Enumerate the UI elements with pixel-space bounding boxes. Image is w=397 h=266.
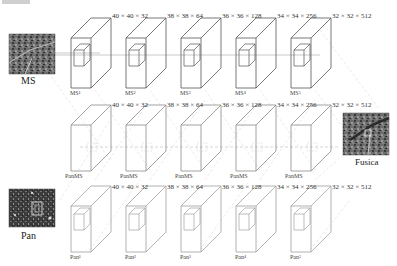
layer-dimensions-label: 32 × 32 × 512 — [332, 184, 371, 191]
feature-map-box — [236, 186, 276, 252]
fusion-output-image — [343, 113, 389, 155]
layer-dimensions-label: 40 × 40 × 32 — [112, 102, 148, 109]
feature-map-box — [126, 105, 166, 171]
feature-map-box — [126, 186, 166, 252]
layer-dimensions-label: 34 × 34 × 256 — [277, 102, 316, 109]
feature-map-box — [181, 186, 221, 252]
layer-name-label: PanMS — [175, 173, 193, 179]
layer-dimensions-label: 40 × 40 × 32 — [112, 13, 148, 20]
feature-map-box — [291, 18, 331, 88]
layer-name-label: MS¹ — [70, 90, 80, 96]
layer-name-label: PanMS — [230, 173, 248, 179]
pan-branch-boxes — [71, 186, 331, 252]
figure-caption-fragment — [2, 0, 30, 4]
pan-input-image — [9, 189, 55, 227]
layer-dimensions-label: 34 × 34 × 256 — [277, 13, 316, 20]
layer-dimensions-label: 38 × 38 × 64 — [167, 102, 203, 109]
layer-name-label: PanMS — [65, 173, 83, 179]
feature-map-box — [236, 18, 276, 88]
layer-name-label: Pan⁵ — [290, 254, 301, 260]
layer-name-label: MS³ — [180, 90, 190, 96]
layer-dimensions-label: 38 × 38 × 64 — [167, 184, 203, 191]
layer-dimensions-label: 36 × 36 × 128 — [222, 184, 261, 191]
layer-name-label: Pan² — [125, 254, 136, 260]
panms-branch-boxes — [71, 105, 331, 171]
feature-map-box — [181, 18, 221, 88]
layer-dimensions-label: 34 × 34 × 256 — [277, 184, 316, 191]
pan-input-label: Pan — [21, 231, 36, 241]
connector-lines — [48, 53, 340, 147]
layer-name-label: MS² — [125, 90, 135, 96]
layer-dimensions-label: 32 × 32 × 512 — [332, 13, 371, 20]
layer-dimensions-label: 36 × 36 × 128 — [222, 13, 261, 20]
layer-dimensions-label: 32 × 32 × 512 — [332, 102, 371, 109]
network-diagram — [0, 0, 397, 266]
layer-dimensions-label: 36 × 36 × 128 — [222, 102, 261, 109]
feature-map-box — [236, 105, 276, 171]
feature-map-box — [71, 186, 111, 252]
ms-branch-boxes — [71, 18, 331, 88]
feature-map-box — [291, 186, 331, 252]
layer-name-label: Pan¹ — [70, 254, 81, 260]
layer-name-label: PanMS — [285, 173, 303, 179]
ms-input-label: MS — [21, 76, 35, 86]
layer-dimensions-label: 40 × 40 × 32 — [112, 184, 148, 191]
ms-input-image — [9, 34, 55, 74]
layer-name-label: PanMS — [120, 173, 138, 179]
layer-name-label: Pan⁴ — [235, 254, 246, 260]
layer-name-label: Pan³ — [180, 254, 191, 260]
feature-map-box — [71, 105, 111, 171]
layer-name-label: MS⁴ — [235, 90, 246, 96]
layer-dimensions-label: 38 × 38 × 64 — [167, 13, 203, 20]
fusion-output-label: Fusica — [355, 158, 379, 167]
feature-map-box — [126, 18, 166, 88]
layer-name-label: MS⁵ — [290, 90, 301, 96]
feature-map-box — [181, 105, 221, 171]
feature-map-box — [291, 105, 331, 171]
